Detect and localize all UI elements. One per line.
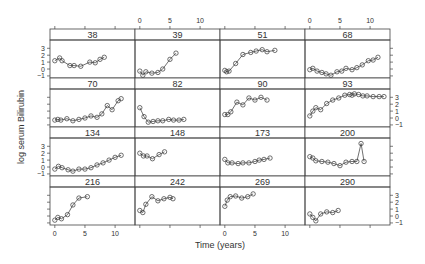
panel-51: 51 bbox=[220, 29, 305, 78]
strip-label: 38 bbox=[87, 30, 97, 40]
panel-242: 242 bbox=[135, 176, 220, 225]
strip-label: 39 bbox=[172, 30, 182, 40]
plot-area bbox=[135, 187, 220, 225]
data-point bbox=[308, 114, 312, 118]
strip-label: 93 bbox=[342, 79, 352, 89]
panel-173: 173 bbox=[220, 127, 305, 176]
strip-label: 269 bbox=[255, 177, 270, 187]
y-tick-label: −1 bbox=[395, 121, 403, 128]
trend-line bbox=[225, 97, 267, 114]
plot-area bbox=[220, 138, 305, 176]
trend-line bbox=[225, 194, 253, 206]
panel-148: 148 bbox=[135, 127, 220, 176]
y-tick-label: 2 bbox=[41, 150, 45, 157]
x-tick-label: 0 bbox=[223, 230, 227, 237]
y-tick-label: 0 bbox=[41, 164, 45, 171]
trend-line bbox=[310, 144, 364, 166]
strip-label: 68 bbox=[342, 30, 352, 40]
y-tick-label: 3 bbox=[41, 143, 45, 150]
panel-38: 38 bbox=[50, 29, 135, 78]
y-tick-label: 1 bbox=[395, 206, 399, 213]
panel-269: 269 bbox=[220, 176, 305, 225]
x-tick-label: 5 bbox=[83, 230, 87, 237]
plot-area bbox=[305, 138, 390, 176]
panel-68: 68 bbox=[305, 29, 390, 78]
y-tick-label: 2 bbox=[41, 52, 45, 59]
x-tick-label: 5 bbox=[168, 17, 172, 24]
panel-90: 90 bbox=[220, 78, 305, 127]
y-tick-label: −1 bbox=[37, 170, 45, 177]
panel-134: 134 bbox=[50, 127, 135, 176]
strip-label: 242 bbox=[170, 177, 185, 187]
x-tick-label: 10 bbox=[196, 17, 204, 24]
strip-label: 148 bbox=[170, 128, 185, 138]
trend-line bbox=[310, 94, 384, 116]
y-tick-label: 2 bbox=[395, 199, 399, 206]
x-tick-label: 0 bbox=[308, 17, 312, 24]
x-tick-label: 0 bbox=[138, 17, 142, 24]
trend-line bbox=[55, 155, 121, 171]
strip-label: 51 bbox=[257, 30, 267, 40]
y-tick-label: 0 bbox=[395, 115, 399, 122]
x-tick-label: 10 bbox=[366, 17, 374, 24]
y-tick-label: 1 bbox=[395, 108, 399, 115]
trend-line bbox=[310, 57, 378, 75]
trend-line bbox=[140, 53, 176, 75]
y-tick-label: 2 bbox=[395, 101, 399, 108]
strip-label: 82 bbox=[172, 79, 182, 89]
plot-area bbox=[220, 89, 305, 127]
panel-290: 290 bbox=[305, 176, 390, 225]
y-tick-label: −1 bbox=[395, 219, 403, 226]
y-tick-label: −1 bbox=[37, 72, 45, 79]
plot-area bbox=[135, 138, 220, 176]
x-tick-label: 5 bbox=[338, 17, 342, 24]
panel-216: 216 bbox=[50, 176, 135, 225]
strip-label: 90 bbox=[257, 79, 267, 89]
panel-70: 70 bbox=[50, 78, 135, 127]
strip-label: 216 bbox=[85, 177, 100, 187]
strip-label: 200 bbox=[340, 128, 355, 138]
x-tick-label: 0 bbox=[53, 230, 57, 237]
data-point bbox=[102, 55, 106, 59]
trend-line bbox=[140, 108, 184, 123]
plot-area bbox=[50, 187, 135, 225]
x-axis-label: Time (years) bbox=[195, 240, 245, 250]
trellis-chart: 3839516870829093134148173200216242269290… bbox=[0, 0, 425, 264]
y-tick-label: 3 bbox=[395, 192, 399, 199]
y-tick-label: 0 bbox=[395, 213, 399, 220]
y-tick-label: 1 bbox=[41, 59, 45, 66]
x-tick-label: 10 bbox=[111, 230, 119, 237]
panel-200: 200 bbox=[305, 127, 390, 176]
panel-93: 93 bbox=[305, 78, 390, 127]
y-tick-label: 0 bbox=[41, 66, 45, 73]
y-tick-label: 3 bbox=[395, 94, 399, 101]
x-tick-label: 5 bbox=[253, 230, 257, 237]
trend-line bbox=[225, 50, 275, 72]
strip-label: 134 bbox=[85, 128, 100, 138]
y-axis-label: log serum Bilirubin bbox=[16, 90, 26, 164]
panel-39: 39 bbox=[135, 29, 220, 78]
plot-area bbox=[220, 40, 305, 78]
strip-label: 173 bbox=[255, 128, 270, 138]
y-tick-label: 1 bbox=[41, 157, 45, 164]
panel-82: 82 bbox=[135, 78, 220, 127]
panel-grid: 3839516870829093134148173200216242269290… bbox=[37, 17, 403, 237]
strip-label: 290 bbox=[340, 177, 355, 187]
plot-area bbox=[220, 187, 305, 225]
x-tick-label: 10 bbox=[281, 230, 289, 237]
strip-label: 70 bbox=[87, 79, 97, 89]
y-tick-label: 3 bbox=[41, 45, 45, 52]
